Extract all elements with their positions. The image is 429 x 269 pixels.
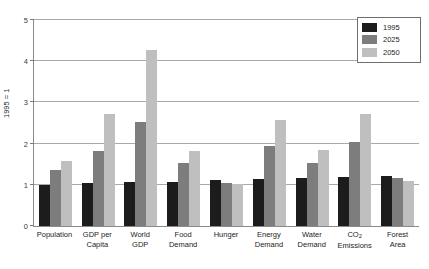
legend-label-2050: 2050 bbox=[383, 48, 400, 57]
x-axis-category-labels: PopulationGDP perCapitaWorldGDPFoodDeman… bbox=[33, 230, 419, 266]
x-axis-category-label: WaterDemand bbox=[290, 230, 333, 266]
x-axis-category-label: EnergyDemand bbox=[247, 230, 290, 266]
x-axis-category-label: ForestArea bbox=[376, 230, 419, 266]
bar bbox=[146, 50, 157, 226]
x-axis-category-label: Hunger bbox=[205, 230, 248, 266]
bar bbox=[210, 180, 221, 226]
bar bbox=[104, 114, 115, 226]
bar-chart: 1995 = 1 012345 PopulationGDP perCapitaW… bbox=[0, 0, 429, 269]
bar bbox=[167, 182, 178, 226]
x-axis-category-label: WorldGDP bbox=[119, 230, 162, 266]
legend-swatch-2050 bbox=[362, 48, 377, 57]
bar bbox=[93, 151, 104, 226]
bar bbox=[360, 114, 371, 226]
legend-item: 1995 bbox=[362, 21, 416, 34]
legend-item: 2025 bbox=[362, 34, 416, 47]
bar-group bbox=[34, 20, 77, 226]
legend-label-1995: 1995 bbox=[383, 23, 400, 32]
x-axis-category-label: FoodDemand bbox=[162, 230, 205, 266]
y-axis-tick-label: 5 bbox=[24, 16, 28, 25]
bar bbox=[318, 150, 329, 226]
legend-swatch-1995 bbox=[362, 23, 377, 32]
x-axis-category-label: GDP perCapita bbox=[76, 230, 119, 266]
bar bbox=[50, 170, 61, 226]
bar bbox=[189, 151, 200, 226]
bar bbox=[392, 178, 403, 226]
bar-group bbox=[77, 20, 120, 226]
y-axis-tick-label: 1 bbox=[24, 180, 28, 189]
bar bbox=[82, 183, 93, 226]
x-axis-category-label: Population bbox=[33, 230, 76, 266]
y-axis-tick-label: 3 bbox=[24, 98, 28, 107]
y-axis-tick-label: 2 bbox=[24, 139, 28, 148]
bar-group bbox=[162, 20, 205, 226]
legend-item: 2050 bbox=[362, 46, 416, 59]
bar bbox=[253, 179, 264, 226]
bar bbox=[39, 185, 50, 226]
legend: 1995 2025 2050 bbox=[357, 17, 421, 63]
bar bbox=[61, 161, 72, 226]
bar bbox=[232, 184, 243, 226]
bar bbox=[221, 183, 232, 226]
bar-group bbox=[291, 20, 334, 226]
legend-label-2025: 2025 bbox=[383, 35, 400, 44]
bar bbox=[403, 181, 414, 226]
bar-group bbox=[120, 20, 163, 226]
bar-group bbox=[205, 20, 248, 226]
bar bbox=[275, 120, 286, 226]
bar bbox=[381, 176, 392, 226]
bar bbox=[307, 163, 318, 226]
y-axis-tick-label: 0 bbox=[24, 222, 28, 231]
y-axis-title: 1995 = 1 bbox=[2, 89, 11, 118]
bar bbox=[124, 182, 135, 226]
bar-group bbox=[248, 20, 291, 226]
bar bbox=[264, 146, 275, 226]
bar bbox=[296, 178, 307, 226]
bar bbox=[135, 122, 146, 226]
x-axis-category-label: CO2Emissions bbox=[333, 230, 376, 266]
bar bbox=[178, 163, 189, 226]
bar bbox=[349, 142, 360, 226]
legend-swatch-2025 bbox=[362, 35, 377, 44]
bar bbox=[338, 177, 349, 226]
y-axis-tick-label: 4 bbox=[24, 57, 28, 66]
